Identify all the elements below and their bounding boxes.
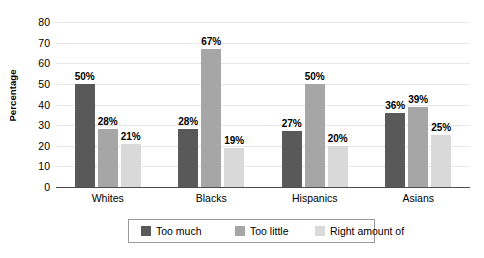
- bar-chart-figure: Percentage 80706050403020100 50%28%21%28…: [0, 0, 484, 258]
- legend-swatch-icon: [141, 226, 151, 236]
- x-axis-category-label: Hispanics: [292, 192, 338, 204]
- bar[interactable]: [385, 113, 405, 187]
- legend-item-label: Too little: [250, 226, 289, 237]
- bar[interactable]: [121, 144, 141, 187]
- bar-slot: 28%: [98, 22, 118, 187]
- bar-slot: 27%: [282, 22, 302, 187]
- bar-value-label: 19%: [224, 136, 244, 146]
- bar-value-label: 28%: [98, 117, 118, 127]
- bar[interactable]: [305, 84, 325, 187]
- legend-item[interactable]: Too little: [235, 226, 289, 237]
- y-axis-title-text: Percentage: [7, 69, 18, 121]
- x-axis-category-labels: WhitesBlacksHispanicsAsians: [56, 192, 470, 210]
- bar-value-label: 27%: [282, 119, 302, 129]
- y-axis-tick-label: 70: [28, 37, 50, 48]
- legend-swatch-icon: [235, 226, 245, 236]
- bar-group: 50%28%21%: [56, 22, 160, 187]
- bar[interactable]: [201, 49, 221, 187]
- plot-area: 50%28%21%28%67%19%27%50%20%36%39%25%: [56, 22, 470, 187]
- bar[interactable]: [75, 84, 95, 187]
- y-axis-tick-label: 50: [28, 79, 50, 90]
- bar-slot: 50%: [305, 22, 325, 187]
- bar-value-label: 21%: [121, 132, 141, 142]
- bar[interactable]: [408, 107, 428, 187]
- bar-value-label: 25%: [431, 123, 451, 133]
- bar-value-label: 50%: [305, 72, 325, 82]
- bar-slot: 21%: [121, 22, 141, 187]
- bar-slot: 39%: [408, 22, 428, 187]
- bar-value-label: 36%: [385, 101, 405, 111]
- y-axis-tick-label: 40: [28, 99, 50, 110]
- bar[interactable]: [282, 131, 302, 187]
- legend-item[interactable]: Right amount of: [315, 226, 404, 237]
- legend-item[interactable]: Too much: [141, 226, 202, 237]
- y-axis-tick-label: 20: [28, 141, 50, 152]
- bar-slot: 20%: [328, 22, 348, 187]
- bar-slot: 36%: [385, 22, 405, 187]
- bar-group: 28%67%19%: [160, 22, 264, 187]
- bar[interactable]: [328, 146, 348, 187]
- bar-value-label: 67%: [201, 37, 221, 47]
- y-axis-tick-label: 10: [28, 161, 50, 172]
- bar-group: 27%50%20%: [263, 22, 367, 187]
- bar-value-label: 28%: [178, 117, 198, 127]
- y-axis-tick-label: 60: [28, 58, 50, 69]
- bar[interactable]: [224, 148, 244, 187]
- x-axis-line: [56, 187, 470, 188]
- y-axis-tick-labels: 80706050403020100: [20, 22, 50, 187]
- bar-value-label: 20%: [328, 134, 348, 144]
- bar[interactable]: [98, 129, 118, 187]
- bar-slot: 67%: [201, 22, 221, 187]
- y-axis-tick-label: 30: [28, 120, 50, 131]
- bar-value-label: 39%: [408, 95, 428, 105]
- x-axis-category-label: Asians: [402, 192, 434, 204]
- bar[interactable]: [178, 129, 198, 187]
- x-axis-category-label: Whites: [92, 192, 124, 204]
- bar-group: 36%39%25%: [367, 22, 471, 187]
- legend-item-label: Right amount of: [330, 226, 404, 237]
- chart-legend: Too muchToo littleRight amount of: [128, 219, 375, 243]
- y-axis-title: Percentage: [2, 0, 22, 190]
- legend-item-label: Too much: [156, 226, 202, 237]
- legend-swatch-icon: [315, 226, 325, 236]
- bar-slot: 19%: [224, 22, 244, 187]
- y-axis-tick-label: 80: [28, 17, 50, 28]
- x-axis-category-label: Blacks: [196, 192, 227, 204]
- bar-value-label: 50%: [75, 72, 95, 82]
- y-axis-tick-label: 0: [28, 182, 50, 193]
- bar-slot: 25%: [431, 22, 451, 187]
- bar-slot: 50%: [75, 22, 95, 187]
- bar[interactable]: [431, 135, 451, 187]
- bar-slot: 28%: [178, 22, 198, 187]
